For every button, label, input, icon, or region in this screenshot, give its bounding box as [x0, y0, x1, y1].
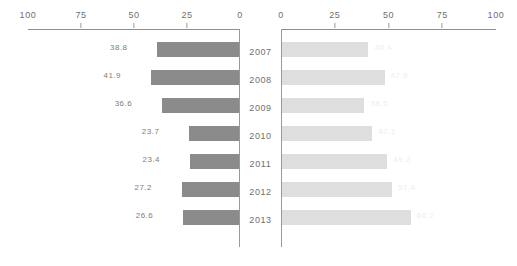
right-panel-cell: 40.4 [282, 38, 496, 66]
tick-mark-icon [442, 23, 443, 28]
right-axis-ticks: 0 25 50 75 100 [281, 10, 496, 34]
year-label-cell: 2007 [240, 38, 281, 66]
bar-right [282, 42, 368, 57]
bar-right [282, 154, 387, 169]
year-label-cell: 2009 [240, 94, 281, 122]
year-label: 2008 [249, 75, 271, 85]
chart-row: 41.9200847.9 [0, 66, 517, 94]
chart-row: 23.7201042.1 [0, 122, 517, 150]
bar-left-value-label: 26.6 [136, 211, 160, 220]
bar-left-value-label: 38.8 [110, 43, 134, 52]
bar-right [282, 126, 372, 141]
year-label-cell: 2008 [240, 66, 281, 94]
left-panel-cell: 26.6 [28, 206, 239, 234]
right-axis-tick-25: 25 [329, 10, 340, 28]
left-panel-cell: 41.9 [28, 66, 239, 94]
right-axis-tick-label: 0 [278, 10, 284, 21]
bar-right [282, 70, 385, 85]
left-axis-tick-0: 0 [237, 10, 243, 28]
bar-right-value-label: 51.4 [392, 183, 416, 192]
bar-left-value-label: 23.4 [142, 155, 166, 164]
bar-left [162, 98, 239, 113]
left-axis-tick-75: 75 [75, 10, 86, 28]
bar-right-value-label: 60.2 [411, 211, 435, 220]
year-label-cell: 2012 [240, 178, 281, 206]
left-panel-cell: 23.4 [28, 150, 239, 178]
left-axis-line [28, 29, 240, 30]
bar-left-value-label: 41.9 [103, 71, 127, 80]
year-label: 2009 [249, 103, 271, 113]
year-label: 2010 [249, 131, 271, 141]
left-axis-tick-label: 75 [75, 10, 86, 21]
bar-left [183, 210, 239, 225]
bar-left-value-label: 36.6 [115, 99, 139, 108]
left-panel-cell: 38.8 [28, 38, 239, 66]
bar-left-value-label: 23.7 [142, 127, 166, 136]
right-axis-tick-label: 25 [329, 10, 340, 21]
chart-row: 23.4201149.2 [0, 150, 517, 178]
bar-left [157, 42, 239, 57]
bar-right [282, 182, 392, 197]
left-panel-cell: 23.7 [28, 122, 239, 150]
year-label-cell: 2011 [240, 150, 281, 178]
right-panel-cell: 49.2 [282, 150, 496, 178]
tick-mark-icon [187, 23, 188, 28]
left-axis-tick-label: 25 [181, 10, 192, 21]
tornado-chart: 100 75 50 25 0 0 25 50 [0, 0, 517, 266]
year-label: 2012 [249, 187, 271, 197]
year-label-cell: 2010 [240, 122, 281, 150]
right-axis-tick-0: 0 [278, 10, 284, 28]
right-panel-cell: 47.9 [282, 66, 496, 94]
left-axis-ticks: 100 75 50 25 0 [28, 10, 240, 34]
left-axis-tick-label: 50 [128, 10, 139, 21]
bar-left [190, 154, 239, 169]
bar-left [182, 182, 239, 197]
right-axis-line [281, 29, 496, 30]
chart-row: 26.6201360.2 [0, 206, 517, 234]
bar-left [151, 70, 239, 85]
left-axis-tick-50: 50 [128, 10, 139, 28]
right-panel-cell: 38.5 [282, 94, 496, 122]
right-axis-tick-50: 50 [383, 10, 394, 28]
tick-mark-icon [81, 23, 82, 28]
tick-mark-icon [134, 23, 135, 28]
year-label: 2011 [250, 159, 272, 169]
tick-mark-icon [334, 23, 335, 28]
bar-right [282, 98, 364, 113]
chart-row: 38.8200740.4 [0, 38, 517, 66]
left-axis-tick-100: 100 [20, 10, 37, 28]
chart-row: 27.2201251.4 [0, 178, 517, 206]
bar-right-value-label: 42.1 [372, 127, 396, 136]
year-label-cell: 2013 [240, 206, 281, 234]
bar-right-value-label: 49.2 [387, 155, 411, 164]
right-panel-cell: 51.4 [282, 178, 496, 206]
left-panel-cell: 27.2 [28, 178, 239, 206]
bar-right-value-label: 38.5 [364, 99, 388, 108]
chart-row: 36.6200938.5 [0, 94, 517, 122]
right-panel-cell: 42.1 [282, 122, 496, 150]
year-label: 2007 [249, 47, 271, 57]
right-axis-tick-label: 50 [383, 10, 394, 21]
right-axis-tick-label: 100 [488, 10, 505, 21]
right-panel-cell: 60.2 [282, 206, 496, 234]
bar-right [282, 210, 411, 225]
bar-right-value-label: 40.4 [368, 43, 392, 52]
right-axis-tick-label: 75 [437, 10, 448, 21]
chart-rows: 38.8200740.441.9200847.936.6200938.523.7… [0, 38, 517, 234]
left-panel-cell: 36.6 [28, 94, 239, 122]
bar-left [189, 126, 239, 141]
left-axis-tick-label: 0 [237, 10, 243, 21]
right-axis-tick-100: 100 [488, 10, 505, 28]
tick-mark-icon [388, 23, 389, 28]
right-axis-tick-75: 75 [437, 10, 448, 28]
bar-left-value-label: 27.2 [134, 183, 158, 192]
left-axis-tick-25: 25 [181, 10, 192, 28]
bar-right-value-label: 47.9 [385, 71, 409, 80]
left-axis-tick-label: 100 [20, 10, 37, 21]
year-label: 2013 [249, 215, 271, 225]
